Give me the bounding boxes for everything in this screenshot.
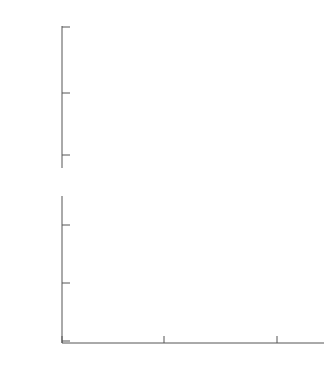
top-panel-axes — [62, 26, 70, 168]
bottom-panel-axes — [62, 196, 324, 343]
figure-root — [0, 0, 332, 379]
plot-canvas — [0, 0, 332, 379]
